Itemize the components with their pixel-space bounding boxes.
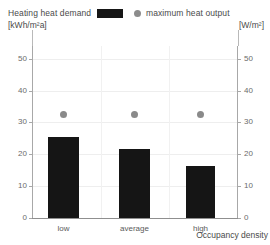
y-right-tick-30 xyxy=(238,122,241,123)
legend-left-label: Heating heat demand xyxy=(8,8,91,19)
bar-average[interactable] xyxy=(119,149,150,218)
y-left-label-0: 0 xyxy=(23,214,27,222)
legend-entry-maximum-heat-output: maximum heat output [W/m²] xyxy=(134,8,264,31)
y-right-label-40: 40 xyxy=(244,87,253,95)
legend-right-label: maximum heat output xyxy=(146,8,230,19)
y-right-label-50: 50 xyxy=(244,55,253,63)
y-left-label-10: 10 xyxy=(18,182,27,190)
chart-plot-area: 0 10 20 30 40 50 0 10 20 30 40 50 low av… xyxy=(32,46,238,219)
y-left-tick-10 xyxy=(29,186,32,187)
y-left-tick-50 xyxy=(29,59,32,60)
x-label-low: low xyxy=(48,224,79,233)
y-left-tick-20 xyxy=(29,154,32,155)
y-right-label-30: 30 xyxy=(244,118,253,126)
x-axis-title: Occupancy density xyxy=(196,230,268,240)
dot-high[interactable] xyxy=(197,111,204,118)
dot-average[interactable] xyxy=(131,111,138,118)
y-right-tick-20 xyxy=(238,154,241,155)
gridline-40 xyxy=(33,91,237,92)
legend-left-leader-line xyxy=(32,30,33,46)
y-left-label-30: 30 xyxy=(18,118,27,126)
y-left-label-40: 40 xyxy=(18,87,27,95)
y-left-label-50: 50 xyxy=(18,55,27,63)
y-left-tick-30 xyxy=(29,122,32,123)
dot-low[interactable] xyxy=(60,111,67,118)
legend-entry-heating-heat-demand: Heating heat demand [kWh/m²a] xyxy=(8,8,138,31)
legend-right-units: [W/m²] xyxy=(134,20,264,31)
y-right-label-0: 0 xyxy=(244,214,248,222)
y-right-tick-0 xyxy=(238,218,241,219)
legend-left-row: Heating heat demand xyxy=(8,8,138,19)
y-right-label-10: 10 xyxy=(244,182,253,190)
legend-left-units: [kWh/m²a] xyxy=(8,20,138,31)
bar-high[interactable] xyxy=(186,166,215,218)
y-axis-right-line xyxy=(237,46,238,219)
bar-low[interactable] xyxy=(48,137,79,218)
gridline-50 xyxy=(33,59,237,60)
legend-right-leader-line xyxy=(238,30,239,46)
x-label-average: average xyxy=(119,224,150,233)
category-separator-1 xyxy=(101,46,102,218)
legend-right-row: maximum heat output xyxy=(134,8,264,19)
gridline-30 xyxy=(33,122,237,123)
dot-marker-icon xyxy=(134,10,141,17)
y-left-tick-0 xyxy=(29,218,32,219)
y-right-tick-50 xyxy=(238,59,241,60)
category-separator-2 xyxy=(169,46,170,218)
bar-swatch-icon xyxy=(97,9,123,18)
y-left-tick-40 xyxy=(29,91,32,92)
y-right-label-20: 20 xyxy=(244,150,253,158)
y-axis-left-line xyxy=(32,46,33,219)
y-right-tick-10 xyxy=(238,186,241,187)
x-axis-line xyxy=(32,218,238,219)
y-left-label-20: 20 xyxy=(18,150,27,158)
chart-legend: Heating heat demand [kWh/m²a] maximum he… xyxy=(0,0,270,46)
y-right-tick-40 xyxy=(238,91,241,92)
